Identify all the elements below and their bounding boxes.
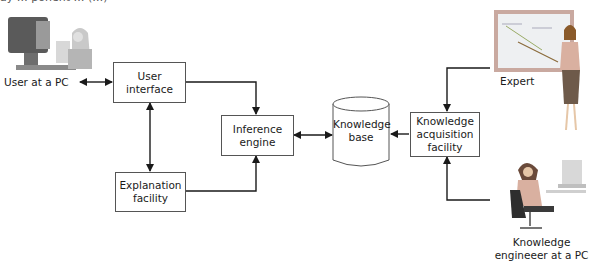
inference-engine-box: Inference engine: [221, 115, 294, 156]
user-interface-box: User interface: [113, 62, 186, 103]
inference-engine-line1: Inference: [233, 123, 282, 136]
explanation-facility-line1: Explanation: [119, 179, 181, 192]
inference-engine-line2: engine: [233, 136, 282, 149]
expert-label: Expert: [500, 75, 534, 88]
knowledge-acquisition-facility-box: Knowledge acquisition facility: [410, 112, 480, 157]
knowledge-base-label: Knowledge base: [333, 118, 389, 144]
knowledge-base-line1: Knowledge: [333, 118, 389, 131]
explanation-facility-box: Explanation facility: [115, 172, 186, 212]
knowledge-engineer-label: Knowledge engineeer at a PC: [494, 236, 589, 262]
explanation-facility-line2: facility: [119, 192, 181, 205]
ka-line3: facility: [416, 141, 474, 154]
user-interface-line2: interface: [126, 83, 173, 96]
knowledge-engineer-line2: engineeer at a PC: [494, 249, 589, 262]
user-interface-line1: User: [126, 70, 173, 83]
ka-line2: acquisition: [416, 128, 474, 141]
user-at-computer-illustration: [6, 15, 96, 73]
expert-at-whiteboard-illustration: [492, 6, 589, 136]
knowledge-base-line2: base: [333, 131, 389, 144]
knowledge-engineer-line1: Knowledge: [494, 236, 589, 249]
user-at-pc-label: User at a PC: [4, 76, 69, 89]
engineer-at-computer-illustration: [500, 150, 589, 232]
ka-line1: Knowledge: [416, 115, 474, 128]
